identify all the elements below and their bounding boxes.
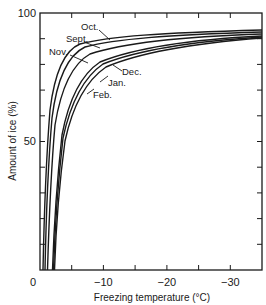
y-tick-label-50: 50 xyxy=(24,135,36,147)
label-dec: Dec. xyxy=(122,66,142,77)
x-axis-title: Freezing temperature (°C) xyxy=(94,292,210,303)
x-tick-label-30: −30 xyxy=(221,276,240,288)
curves xyxy=(43,30,262,270)
label-feb: Feb. xyxy=(93,89,112,100)
plot-frame xyxy=(40,13,262,270)
y-tick-label-100: 100 xyxy=(18,7,36,19)
curve-feb xyxy=(55,38,263,270)
x-tick-label-20: −20 xyxy=(158,276,177,288)
x-tick-label-0: 0 xyxy=(30,276,36,288)
x-tick-label-10: −10 xyxy=(94,276,113,288)
label-oct: Oct. xyxy=(81,21,98,32)
label-jan: Jan. xyxy=(108,77,126,88)
y-axis-title: Amount of ice (%) xyxy=(7,101,18,180)
curve-nov xyxy=(48,34,263,270)
curve-jan xyxy=(54,37,263,270)
x-ticks xyxy=(72,13,231,270)
curve-sept xyxy=(45,32,262,270)
ice-amount-chart: 100 50 0 −10 −20 −30 Freezing temperatur… xyxy=(0,0,266,305)
curve-dec xyxy=(53,36,263,270)
label-nov: Nov. xyxy=(49,46,68,57)
label-sept: Sept. xyxy=(66,33,88,44)
